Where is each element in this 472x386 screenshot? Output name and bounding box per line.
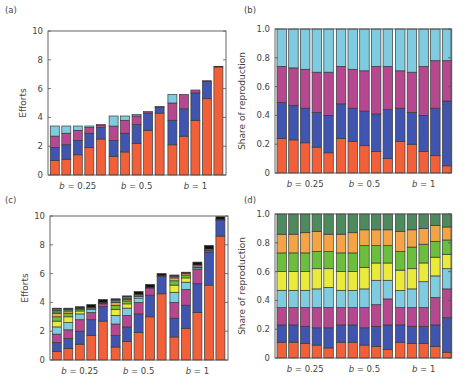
bar-segment (419, 326, 429, 343)
bar-segment (431, 29, 441, 61)
group-label: b = 0.25 (287, 179, 324, 189)
bar-segment (146, 295, 155, 317)
bar-segment (371, 29, 381, 66)
bar-segment (181, 282, 190, 289)
bar-segment (75, 307, 84, 308)
bar-segment (73, 155, 82, 175)
bar-segment (146, 317, 155, 360)
y-tick-label: 0 (38, 170, 43, 180)
bar-segment (360, 214, 370, 230)
bar-segment (383, 110, 393, 159)
bar-segment (360, 289, 370, 308)
bar-segment (109, 116, 118, 126)
bar-segment (300, 308, 310, 327)
bar-segment (202, 81, 211, 82)
bar-segment (123, 296, 132, 297)
bar-segment (168, 145, 177, 175)
y-tick-label: 0.2 (256, 324, 270, 334)
bar-segment (98, 300, 107, 303)
bar-segment (336, 342, 346, 358)
bar-segment (155, 113, 164, 175)
bar-segment (336, 308, 346, 325)
bar-segment (371, 326, 381, 346)
bar-segment (431, 214, 441, 226)
bar-segment (134, 292, 143, 295)
bar-segment (419, 282, 429, 308)
bar-segment (170, 318, 179, 337)
bar-segment (64, 317, 73, 323)
group-label: b = 1 (412, 179, 435, 189)
bar-segment (181, 289, 190, 305)
bar-segment (324, 328, 334, 348)
bar-segment (96, 139, 105, 175)
bar-segment (111, 324, 120, 336)
bar-segment (360, 345, 370, 358)
bar-segment (181, 278, 190, 282)
bar-segment (396, 108, 406, 141)
bar-segment (289, 234, 299, 253)
bar-segment (312, 345, 322, 358)
panel-label: (b) (244, 5, 256, 15)
bar-segment (383, 280, 393, 299)
y-tick-label: 0 (265, 353, 270, 363)
bar-segment (407, 230, 417, 247)
bar-segment (98, 307, 107, 321)
bar-segment (62, 145, 71, 159)
bar-segment (132, 116, 141, 125)
bar-segment (312, 308, 322, 328)
bar-segment (407, 344, 417, 358)
bar-segment (431, 257, 441, 276)
bar-segment (396, 141, 406, 173)
bar-segment (73, 130, 82, 140)
bar-segment (75, 331, 84, 344)
bar-segment (121, 120, 130, 133)
bar-segment (396, 29, 406, 71)
group-label: b = 0.5 (349, 179, 380, 189)
bar-segment (396, 231, 406, 251)
bar-segment (300, 233, 310, 253)
bar-segment (144, 112, 153, 113)
bar-segment (170, 285, 179, 292)
bar-segment (431, 108, 441, 156)
bar-segment (442, 254, 452, 268)
bar-segment (300, 29, 310, 69)
bar-segment (168, 120, 177, 145)
bar-segment (442, 214, 452, 227)
panel-b: b = 0.25b = 0.5b = 100.20.40.60.81.0Shar… (237, 5, 452, 189)
bar-segment (348, 253, 358, 272)
bar-segment (193, 284, 202, 313)
bar-segment (348, 272, 358, 291)
bar-segment (419, 151, 429, 173)
bar-segment (85, 128, 94, 134)
group-label: b = 1 (412, 364, 435, 374)
bar-segment (123, 304, 132, 308)
panel-label: (a) (5, 5, 17, 15)
bar-segment (324, 269, 334, 288)
bar-segment (348, 325, 358, 342)
y-tick-label: 0.2 (256, 139, 270, 149)
bar-segment (179, 94, 188, 108)
bar-segment (179, 109, 188, 136)
bar-segment (52, 310, 61, 313)
y-tick-label: 10 (32, 26, 43, 36)
bar-segment (170, 302, 179, 318)
bar-segment (336, 138, 346, 173)
y-tick-label: 0.6 (256, 267, 270, 277)
bar-segment (407, 144, 417, 173)
bar-segment (204, 285, 213, 360)
bar-segment (289, 140, 299, 173)
bar-segment (87, 320, 96, 336)
panel-label: (c) (5, 195, 16, 205)
bar-segment (123, 301, 132, 304)
bar-segment (419, 344, 429, 358)
bar-segment (348, 69, 358, 108)
bar-segment (52, 308, 61, 309)
y-tick-label: 0.4 (256, 295, 270, 305)
bar-segment (431, 241, 441, 257)
bar-segment (407, 113, 417, 145)
bar-segment (324, 72, 334, 115)
bar-segment (312, 289, 322, 308)
group-label: b = 0.5 (121, 181, 152, 191)
bar-segment (431, 61, 441, 108)
bar-segment (155, 107, 164, 113)
